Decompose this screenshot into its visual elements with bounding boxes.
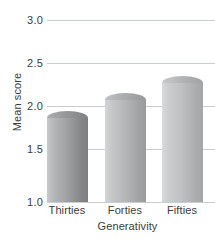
bar-chart: Mean score 3.0 2.5 2.0 1.5 1.0 [0,0,215,239]
x-tick-label-thirties: Thirties [35,204,99,216]
x-tick-label-forties: Forties [93,204,157,216]
bar-thirties[interactable] [47,111,88,202]
y-axis-title: Mean score [11,47,23,157]
x-tick-label-fifties: Fifties [150,204,214,216]
plot-area: 3.0 2.5 2.0 1.5 1.0 [40,10,215,202]
x-axis-title: Generativity [40,220,215,232]
bar-body [105,100,146,202]
x-tick-labels: Thirties Forties Fifties [40,204,215,220]
bar-body [162,83,203,202]
bar-fifties[interactable] [162,76,203,202]
bar-forties[interactable] [105,93,146,202]
x-axis-baseline [47,202,215,203]
bars-layer [40,10,215,202]
bar-body [47,118,88,202]
